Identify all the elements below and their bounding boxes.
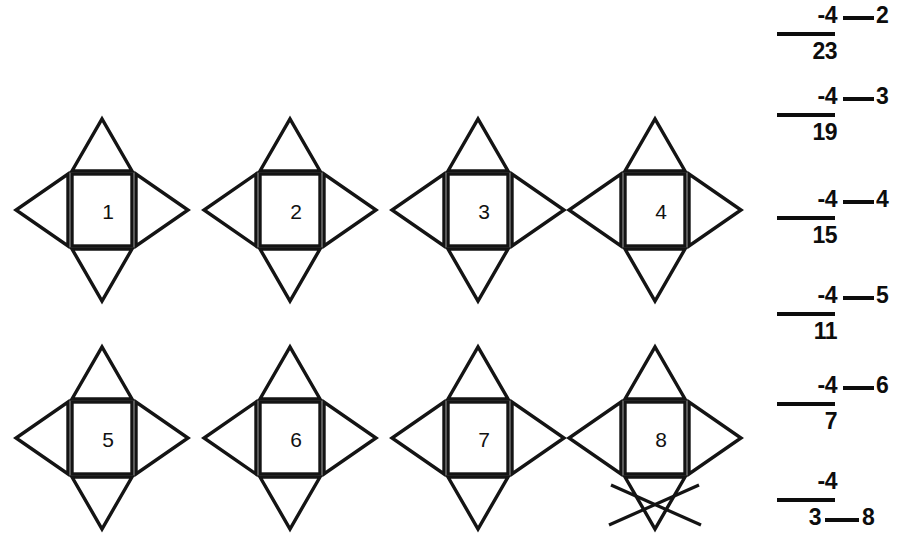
center-square [625, 402, 685, 474]
minuend: 19 [775, 119, 837, 146]
triangle-up [625, 119, 685, 171]
problem-rule [777, 32, 835, 36]
triangle-down [448, 477, 508, 529]
cross-figure-graphic [201, 340, 391, 540]
triangle-up [625, 347, 685, 399]
subtraction-problem[interactable]: -4 23 2 [745, 2, 903, 80]
minuend: 11 [775, 318, 837, 345]
triangle-left [204, 402, 256, 474]
center-square [448, 402, 508, 474]
problem-rule [777, 498, 835, 502]
center-square [260, 174, 320, 246]
answer-blank-dash[interactable] [843, 16, 874, 20]
center-square [72, 174, 132, 246]
triangle-left [16, 174, 68, 246]
subtrahend: -4 [775, 2, 837, 29]
triangle-left [569, 402, 621, 474]
triangle-right [689, 402, 741, 474]
answer-blank-dash[interactable] [825, 518, 859, 522]
cross-figure-graphic [389, 340, 579, 540]
problem-rule [777, 113, 835, 117]
cross-figure[interactable]: 2 [201, 112, 391, 312]
triangle-right [136, 402, 188, 474]
subtrahend: -4 [775, 186, 837, 213]
shape-grid: 1 2 3 [0, 0, 740, 557]
cross-figure[interactable]: 4 [566, 112, 756, 312]
triangle-right [324, 174, 376, 246]
triangle-up [260, 119, 320, 171]
answer-blank-dash[interactable] [843, 200, 874, 204]
answer-value: 3 [759, 504, 821, 531]
worksheet-page: 1 2 3 [0, 0, 903, 557]
center-square [260, 402, 320, 474]
triangle-up [448, 347, 508, 399]
subtrahend: -4 [775, 372, 837, 399]
center-square [72, 402, 132, 474]
subtraction-problem[interactable]: -4 15 4 [745, 186, 903, 264]
triangle-right [324, 402, 376, 474]
problem-rule [777, 402, 835, 406]
problem-index: 3 [876, 83, 902, 110]
answer-blank-dash[interactable] [843, 386, 874, 390]
triangle-right [136, 174, 188, 246]
cross-figure[interactable]: 1 [13, 112, 203, 312]
problem-index: 8 [862, 504, 888, 531]
triangle-down [448, 249, 508, 301]
triangle-right [512, 402, 564, 474]
cross-figure-graphic [201, 112, 391, 312]
subtraction-problem[interactable]: -4 7 6 [745, 372, 903, 450]
triangle-down [260, 477, 320, 529]
center-square [448, 174, 508, 246]
triangle-left [16, 402, 68, 474]
triangle-up [72, 347, 132, 399]
triangle-up [448, 119, 508, 171]
subtraction-problem[interactable]: -4 19 3 [745, 83, 903, 161]
cross-figure[interactable]: 6 [201, 340, 391, 540]
cross-figure[interactable]: 3 [389, 112, 579, 312]
cross-figure[interactable]: 8 [566, 340, 756, 540]
triangle-down [260, 249, 320, 301]
answer-blank-dash[interactable] [843, 97, 874, 101]
cross-figure-graphic [566, 112, 756, 312]
problem-index: 6 [876, 372, 902, 399]
problem-column: -4 23 2-4 19 3-4 15 4-4 11 5-4 7 6-4 [745, 0, 903, 557]
cross-figure-graphic [13, 340, 203, 540]
subtrahend: -4 [775, 468, 837, 495]
triangle-left [569, 174, 621, 246]
triangle-right [512, 174, 564, 246]
triangle-right [689, 174, 741, 246]
triangle-left [392, 402, 444, 474]
cross-figure[interactable]: 7 [389, 340, 579, 540]
triangle-left [392, 174, 444, 246]
subtrahend: -4 [775, 282, 837, 309]
subtrahend: -4 [775, 83, 837, 110]
cross-figure-graphic [389, 112, 579, 312]
subtraction-problem[interactable]: -4 3 8 [745, 468, 903, 546]
cross-figure-graphic [566, 340, 756, 540]
center-square [625, 174, 685, 246]
triangle-up [260, 347, 320, 399]
triangle-down [625, 249, 685, 301]
triangle-down [72, 477, 132, 529]
triangle-left [204, 174, 256, 246]
answer-blank-dash[interactable] [843, 296, 874, 300]
cross-figure-graphic [13, 112, 203, 312]
problem-index: 2 [876, 2, 902, 29]
triangle-up [72, 119, 132, 171]
cross-figure[interactable]: 5 [13, 340, 203, 540]
triangle-down [72, 249, 132, 301]
problem-rule [777, 216, 835, 220]
minuend: 7 [775, 408, 837, 435]
minuend: 23 [775, 38, 837, 65]
minuend: 15 [775, 222, 837, 249]
subtraction-problem[interactable]: -4 11 5 [745, 282, 903, 360]
problem-index: 5 [876, 282, 902, 309]
problem-rule [777, 312, 835, 316]
problem-index: 4 [876, 186, 902, 213]
